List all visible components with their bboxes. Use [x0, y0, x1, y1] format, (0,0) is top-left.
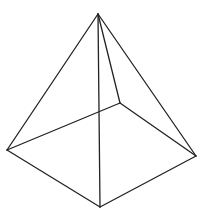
edge-left-bottom [7, 150, 100, 207]
edge-apex-back [98, 14, 120, 103]
pyramid-diagram [0, 0, 211, 222]
edge-apex-bottom [98, 14, 100, 207]
edge-apex-right [98, 14, 196, 156]
edge-apex-left [7, 14, 98, 150]
edge-bottom-right [100, 156, 196, 207]
edge-back-left [7, 103, 120, 150]
pyramid-edges [7, 14, 196, 207]
edge-right-back [120, 103, 196, 156]
